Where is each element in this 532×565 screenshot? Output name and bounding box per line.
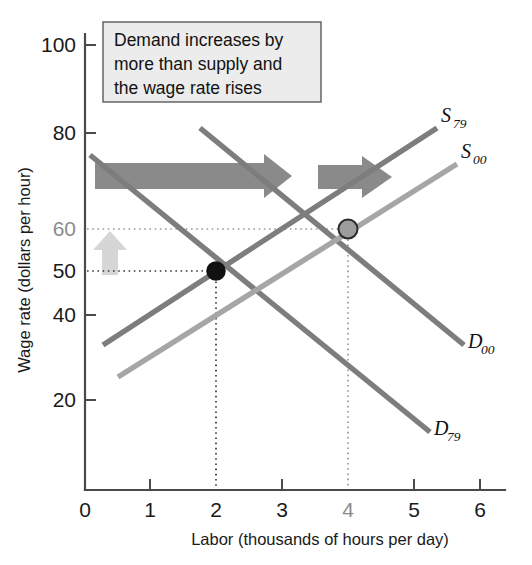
x-tick-label-1: 1 [144,498,156,521]
curve-d79 [90,155,430,432]
x-tick-label-4: 4 [342,498,354,521]
curve-labels: S 79 S 00 D 00 D 79 [433,104,495,444]
label-s79-subscript: 79 [453,116,467,131]
x-tick-label-3: 3 [276,498,288,521]
curve-d00 [200,128,464,345]
supply-demand-chart: 100 80 60 50 40 20 0 1 2 3 4 5 6 Wage ra… [0,0,532,565]
callout-line-3: the wage rate rises [114,78,262,98]
label-s00: S [461,140,471,162]
equilibrium-point-1979 [207,262,225,280]
callout-line-1: Demand increases by [114,30,283,50]
x-tick-label-0: 0 [79,498,91,521]
wage-rise-arrow [93,231,127,275]
equilibrium-point-2000 [339,220,358,239]
label-s79: S [441,104,451,126]
curve-s00 [118,164,457,377]
label-d00-subscript: 00 [481,342,495,357]
y-tick-label-80: 80 [53,121,76,144]
y-tick-label-40: 40 [53,303,76,326]
callout-line-2: more than supply and [114,54,282,74]
chart-canvas: 100 80 60 50 40 20 0 1 2 3 4 5 6 Wage ra… [0,0,532,565]
y-tick-label-20: 20 [53,388,76,411]
label-s00-subscript: 00 [473,152,487,167]
x-tick-label-5: 5 [408,498,420,521]
y-axis-ticks [85,45,96,400]
y-axis-title: Wage rate (dollars per hour) [15,167,33,373]
y-axis-tick-labels: 100 80 60 50 40 20 [41,33,76,411]
x-axis-ticks [150,479,480,490]
x-tick-label-2: 2 [210,498,222,521]
y-tick-label-60: 60 [53,217,76,240]
x-axis-title: Labor (thousands of hours per day) [191,530,449,548]
x-axis-tick-labels: 0 1 2 3 4 5 6 [79,498,486,521]
label-d79-subscript: 79 [447,429,461,444]
y-tick-label-100: 100 [41,33,76,56]
x-tick-label-6: 6 [474,498,486,521]
y-tick-label-50: 50 [53,259,76,282]
callout-annotation: Demand increases by more than supply and… [103,22,321,102]
